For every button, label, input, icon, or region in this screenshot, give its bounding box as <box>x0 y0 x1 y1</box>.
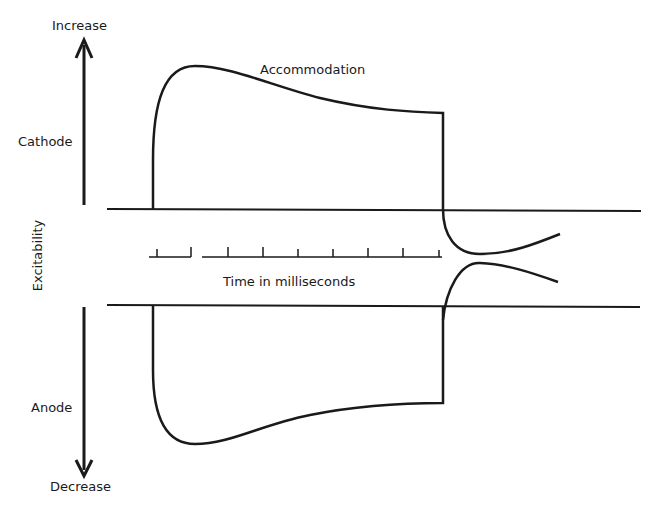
time-axis-label: Time in milliseconds <box>223 274 355 289</box>
decrease-label: Decrease <box>50 479 111 494</box>
excitability-label: Excitability <box>30 211 45 301</box>
anode-baseline <box>107 305 640 307</box>
increase-label: Increase <box>52 18 107 33</box>
cathode-baseline <box>107 209 641 211</box>
accommodation-label: Accommodation <box>260 62 365 77</box>
cathode-post-curve <box>443 209 560 254</box>
anode-post-curve <box>443 263 558 320</box>
cathode-label: Cathode <box>18 134 73 149</box>
anode-label: Anode <box>31 400 72 415</box>
decrease-arrow <box>76 307 92 476</box>
increase-arrow <box>76 40 92 205</box>
time-scale <box>149 247 442 257</box>
anode-curve <box>153 306 443 444</box>
cathode-curve <box>153 66 443 209</box>
